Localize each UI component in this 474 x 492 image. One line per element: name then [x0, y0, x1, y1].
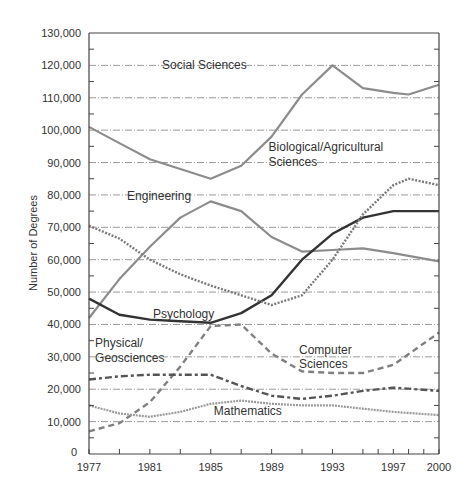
x-tick-label: 1989: [259, 461, 283, 473]
series-label: Social Sciences: [162, 58, 247, 72]
y-tick-label: 90,000: [47, 157, 81, 169]
series-label: Computer: [299, 343, 352, 357]
y-tick-label: 40,000: [47, 318, 81, 330]
y-tick-label: 80,000: [47, 189, 81, 201]
y-tick-label: 0: [71, 446, 77, 458]
y-tick-label: 110,000: [42, 92, 81, 104]
series-line-physical-geosciences: [89, 375, 439, 399]
y-tick-label: 60,000: [47, 254, 81, 266]
x-tick-label: 2000: [427, 461, 451, 473]
series-label: Psychology: [153, 307, 214, 321]
series-line-social-sciences: [89, 65, 439, 178]
series-label: Sciences: [299, 357, 348, 371]
y-tick-label: 50,000: [47, 286, 81, 298]
series-label: Geosciences: [95, 351, 164, 365]
x-tick-label: 1977: [77, 461, 101, 473]
series-label: Biological/Agricultural: [269, 140, 384, 154]
x-tick-label: 1981: [138, 461, 162, 473]
y-tick-label: 30,000: [47, 351, 81, 363]
gridlines: [89, 65, 439, 421]
x-tick-label: 1985: [198, 461, 222, 473]
series-line-psychology: [89, 211, 439, 323]
y-axis-title: Number of Degrees: [27, 195, 39, 291]
x-tick-label: 1997: [381, 461, 405, 473]
series-lines: [89, 65, 439, 431]
series-label: Engineering: [127, 189, 191, 203]
series-label: Sciences: [269, 155, 318, 169]
y-tick-label: 70,000: [47, 221, 81, 233]
series-label: Mathematics: [214, 404, 282, 418]
y-tick-label: 100,000: [41, 124, 81, 136]
x-tick-label: 1993: [320, 461, 344, 473]
y-tick-label: 120,000: [41, 59, 81, 71]
y-tick-label: 20,000: [47, 383, 81, 395]
y-tick-label: 10,000: [47, 416, 81, 428]
y-tick-label: 130,000: [41, 27, 81, 39]
degrees-line-chart: 010,00020,00030,00040,00050,00060,00070,…: [0, 0, 474, 492]
series-label: Physical/: [95, 336, 144, 350]
series-labels: Social SciencesBiological/AgriculturalSc…: [95, 58, 383, 419]
